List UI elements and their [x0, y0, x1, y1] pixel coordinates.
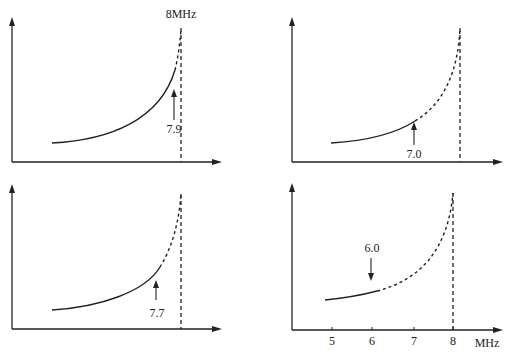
panel-bottom-left: 7.7 [9, 184, 222, 332]
curve-dashed-segment [160, 194, 181, 267]
panel-bottom-right: 6.0 5 6 7 8 MHz [289, 183, 503, 350]
y-axis-arrow-icon [9, 184, 15, 193]
curve-solid-segment [52, 267, 160, 310]
panel-top-right: 7.0 [289, 17, 503, 165]
marker-value-label: 6.0 [365, 241, 380, 255]
curve-dashed-segment [175, 30, 181, 70]
x-tick-label: 6 [369, 334, 375, 348]
x-axis-arrow-icon [493, 327, 503, 333]
curve-solid-segment [331, 121, 415, 143]
x-tick-label: 7 [411, 334, 417, 348]
y-axis-arrow-icon [9, 17, 15, 26]
asymptote-label: 8MHz [166, 7, 197, 21]
x-tick-label: 8 [450, 334, 456, 348]
x-axis-arrow-icon [212, 159, 222, 165]
x-axis-arrow-icon [493, 159, 503, 165]
marker-value-label: 7.0 [407, 147, 422, 161]
marker-arrow-up-icon [171, 89, 177, 97]
x-unit-label: MHz [475, 336, 500, 350]
figure-canvas: 7.9 8MHz 7.0 7.7 6. [0, 0, 510, 360]
y-axis-arrow-icon [289, 17, 295, 26]
x-tick-label: 5 [329, 334, 335, 348]
curve-solid-segment [52, 70, 175, 143]
marker-value-label: 7.9 [167, 122, 182, 136]
marker-arrow-down-icon [368, 273, 374, 281]
x-axis-arrow-icon [212, 326, 222, 332]
y-axis-arrow-icon [289, 183, 295, 192]
marker-value-label: 7.7 [150, 306, 165, 320]
curve-dashed-segment [415, 28, 460, 121]
curve-solid-segment [325, 291, 377, 300]
curve-dashed-segment [377, 193, 453, 291]
panel-top-left: 7.9 8MHz [9, 7, 222, 165]
marker-arrow-up-icon [153, 280, 159, 288]
